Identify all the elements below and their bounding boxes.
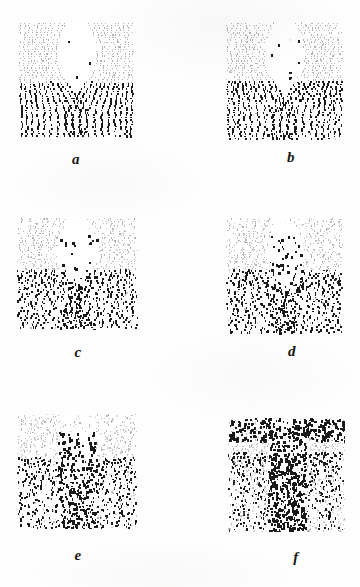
- panel-a-label: a: [56, 152, 96, 167]
- panel-d: [226, 218, 343, 335]
- panel-d-plot: [226, 218, 343, 335]
- panel-a: [19, 22, 134, 138]
- panel-b-label: b: [271, 150, 311, 165]
- panel-b: [226, 22, 343, 140]
- panel-d-label: d: [272, 344, 312, 359]
- panel-e: [17, 414, 137, 529]
- panel-c-plot: [17, 218, 138, 330]
- panel-b-plot: [226, 22, 343, 140]
- panel-c-label: c: [58, 345, 98, 360]
- panel-e-label: e: [58, 548, 98, 563]
- figure-sheet: abcdef: [0, 0, 360, 587]
- panel-e-plot: [17, 414, 137, 529]
- panel-f: [228, 418, 345, 532]
- panel-c: [17, 218, 138, 330]
- panel-f-label: f: [276, 550, 316, 565]
- panel-a-plot: [19, 22, 134, 138]
- panel-f-plot: [228, 418, 345, 532]
